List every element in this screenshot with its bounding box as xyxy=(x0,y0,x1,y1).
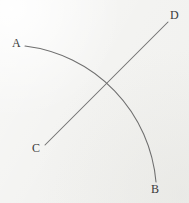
arc-AB xyxy=(25,46,156,182)
point-label-a: A xyxy=(12,37,21,49)
point-label-c: C xyxy=(32,142,40,154)
point-label-d: D xyxy=(170,9,179,21)
geometry-figure: A B C D xyxy=(0,0,189,203)
geometry-canvas xyxy=(0,0,189,203)
line-CD xyxy=(45,22,168,145)
point-label-b: B xyxy=(151,183,159,195)
